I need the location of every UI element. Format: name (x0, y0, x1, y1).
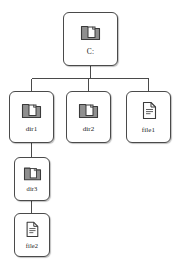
node-dir3[interactable]: dir3 (14, 157, 50, 201)
folder-icon (80, 23, 101, 41)
node-dir1[interactable]: dir1 (9, 91, 54, 143)
node-c[interactable]: C: (63, 12, 118, 66)
node-dir2[interactable]: dir2 (66, 91, 111, 143)
folder-icon (21, 101, 42, 119)
node-label: dir3 (27, 186, 38, 193)
node-label: file2 (26, 243, 38, 250)
node-label: file1 (142, 127, 155, 134)
node-label: C: (87, 48, 94, 56)
diagram-canvas: C: dir1 dir2 (0, 0, 178, 264)
node-file2[interactable]: file2 (14, 213, 50, 257)
folder-icon (23, 165, 42, 181)
node-file1[interactable]: file1 (126, 91, 171, 143)
file-icon (140, 100, 158, 120)
node-label: dir1 (26, 126, 38, 133)
file-icon (24, 220, 40, 238)
folder-icon (78, 101, 99, 119)
node-label: dir2 (83, 126, 95, 133)
